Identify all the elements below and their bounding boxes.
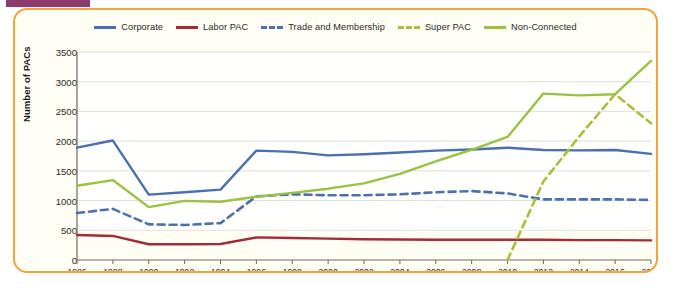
series-line-labor-pac: [77, 235, 651, 244]
chart-canvas: [15, 10, 658, 273]
plot-area: Number of PACs 0500100015002000250030003…: [15, 10, 656, 271]
chart-frame: CorporateLabor PACTrade and MembershipSu…: [13, 8, 658, 273]
page-tab-marker: [6, 0, 90, 7]
